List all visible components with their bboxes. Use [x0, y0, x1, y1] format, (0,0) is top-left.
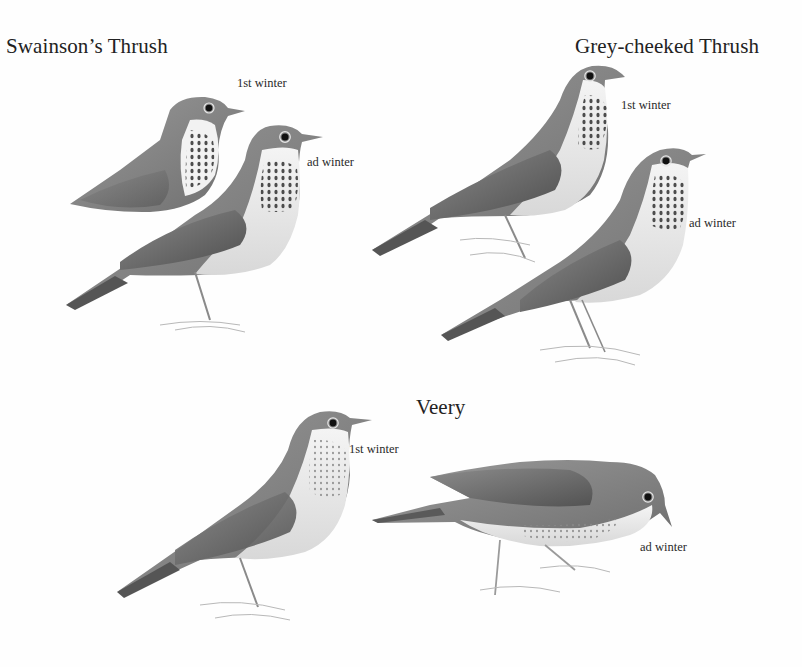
veery-1st-winter-figure [117, 411, 372, 620]
bird-illustrations [0, 0, 802, 667]
age-label-swainsons-ad-winter: ad winter [307, 155, 354, 170]
species-title-veery: Veery [416, 395, 465, 420]
age-label-veery-ad-winter: ad winter [640, 540, 687, 555]
swainsons-thrush-1st-winter-figure [70, 97, 245, 212]
species-title-grey-cheeked-thrush: Grey-cheeked Thrush [575, 34, 759, 59]
species-title-swainsons-thrush: Swainson’s Thrush [6, 34, 168, 59]
veery-ad-winter-figure [372, 460, 672, 595]
age-label-swainsons-1st-winter: 1st winter [237, 76, 287, 91]
age-label-veery-1st-winter: 1st winter [349, 442, 399, 457]
age-label-grey-cheeked-1st-winter: 1st winter [621, 98, 671, 113]
age-label-grey-cheeked-ad-winter: ad winter [689, 216, 736, 231]
illustration-plate: Swainson’s Thrush Grey-cheeked Thrush Ve… [0, 0, 802, 667]
grey-cheeked-thrush-1st-winter-figure [372, 66, 625, 262]
